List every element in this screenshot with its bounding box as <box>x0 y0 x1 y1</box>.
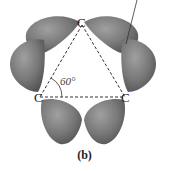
bond-lobes-bottom <box>41 99 125 144</box>
carbon-atom-top: C <box>77 16 86 29</box>
carbon-atom-bottom-left: C <box>34 91 43 104</box>
bond-lobes-top-right <box>84 16 156 92</box>
figure-caption: (b) <box>0 148 169 163</box>
angle-label: 60° <box>60 76 75 87</box>
carbon-atom-bottom-right: C <box>121 91 130 104</box>
